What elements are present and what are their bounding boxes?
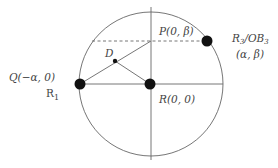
- line-d-to-r: [115, 61, 150, 84]
- point-r3-dot: [202, 36, 213, 47]
- diagram-canvas: P(0, β) R(0, 0) Q(−α, 0) R1 D R3/OB3 (α,…: [0, 0, 278, 168]
- label-r: R(0, 0): [158, 93, 195, 105]
- label-p: P(0, β): [158, 25, 194, 37]
- point-q-dot: [75, 79, 86, 90]
- label-r1: R1: [46, 87, 59, 102]
- label-r3: R3/OB3: [231, 32, 269, 46]
- point-r-dot: [145, 79, 156, 90]
- label-d: D: [104, 47, 114, 59]
- label-q: Q(−α, 0): [9, 71, 55, 84]
- label-r3-coords: (α, β): [236, 48, 264, 60]
- point-d-dot: [113, 59, 117, 63]
